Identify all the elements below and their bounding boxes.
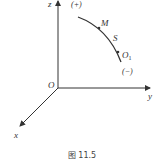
x-axis <box>20 88 58 126</box>
z-axis-label: z <box>47 0 52 9</box>
positive-direction-label: (+) <box>71 0 82 9</box>
arc-s-label: S <box>113 33 118 43</box>
x-axis-label: x <box>13 130 18 140</box>
point-m-label: M <box>100 18 109 28</box>
point-m <box>98 27 101 30</box>
y-axis-label: y <box>147 91 152 101</box>
point-o1-label: O1 <box>122 50 132 61</box>
coordinate-diagram: z y x O M S O1 (+) (−) 图 11.5 <box>0 0 165 165</box>
negative-direction-label: (−) <box>122 67 133 76</box>
point-o1 <box>117 51 120 54</box>
figure-caption: 图 11.5 <box>68 151 96 160</box>
origin-label: O <box>48 80 55 90</box>
